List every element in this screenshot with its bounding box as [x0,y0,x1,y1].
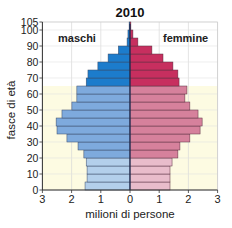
bar-male-80-84 [108,54,130,62]
bar-female-85-89 [130,46,152,54]
x-tick-label: 2 [69,193,75,205]
bar-male-20-24 [84,150,130,158]
bar-female-30-34 [130,134,190,142]
y-tick-label: 70 [27,72,39,84]
bar-male-65-69 [86,78,130,86]
bar-male-25-29 [78,142,130,150]
bar-female-40-44 [130,118,202,126]
label-femmine: femmine [163,32,208,44]
bar-male-45-49 [62,110,130,118]
bar-female-55-59 [130,94,185,102]
bar-female-25-29 [130,142,180,150]
y-axis-title: fasce di età [5,80,17,139]
bar-female-15-19 [130,158,172,166]
y-tick-label: 10 [27,168,39,180]
bar-male-40-44 [56,118,130,126]
bar-female-35-39 [130,126,200,134]
bar-female-50-54 [130,102,190,110]
x-tick-label: 1 [156,193,162,205]
bar-male-75-79 [98,62,130,70]
x-axis-title: milioni di persone [85,208,175,220]
y-tick-label: 50 [27,104,39,116]
bar-male-15-19 [86,158,130,166]
bar-male-0-4 [85,182,130,190]
bar-female-5-9 [130,174,170,182]
bar-male-50-54 [72,102,130,110]
chart-title: 2010 [116,5,145,20]
bar-male-5-9 [87,174,130,182]
y-tick-label: 105 [21,16,39,28]
bar-female-90-94 [130,38,138,46]
bar-female-65-69 [130,78,179,86]
y-tick-label: 20 [27,152,39,164]
label-maschi: maschi [58,32,96,44]
x-tick-label: 2 [185,193,191,205]
bar-female-45-49 [130,110,198,118]
x-tick-label: 3 [215,193,221,205]
bar-male-85-89 [118,46,130,54]
bar-female-0-4 [130,182,170,190]
bar-female-60-64 [130,86,187,94]
bar-male-10-14 [87,166,130,174]
bar-female-10-14 [130,166,170,174]
x-tick-label: 3 [39,193,45,205]
bar-female-20-24 [130,150,178,158]
y-tick-label: 0 [33,184,39,196]
bar-female-70-74 [130,70,178,78]
x-tick-label: 1 [98,193,104,205]
bar-male-35-39 [57,126,130,134]
x-tick-label: 0 [127,193,133,205]
y-tick-label: 90 [27,40,39,52]
population-pyramid-chart: 010203040506070809010010532101232010masc… [0,0,232,228]
y-tick-label: 80 [27,56,39,68]
bar-female-75-79 [130,62,173,70]
bar-male-60-64 [77,86,130,94]
bar-male-70-74 [88,70,130,78]
y-tick-label: 60 [27,88,39,100]
y-tick-label: 40 [27,120,39,132]
bar-male-30-34 [67,134,130,142]
bar-male-55-59 [77,94,130,102]
y-tick-label: 30 [27,136,39,148]
bar-female-80-84 [130,54,163,62]
